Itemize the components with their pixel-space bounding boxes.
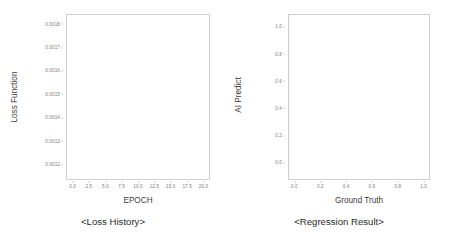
x-tick-label: 1.0 bbox=[420, 184, 427, 189]
y-tick-mark bbox=[283, 54, 285, 55]
y-tick-mark bbox=[61, 47, 63, 48]
y-tick-mark bbox=[61, 70, 63, 71]
y-tick-mark bbox=[61, 24, 63, 25]
y-tick-label: 0.0012 bbox=[45, 162, 60, 167]
x-tick-mark bbox=[294, 181, 295, 183]
x-tick-label: 7.5 bbox=[118, 184, 125, 189]
x-tick-label: 2.5 bbox=[86, 184, 93, 189]
x-tick-label: 12.5 bbox=[150, 184, 159, 189]
y-axis-label-regression-result: AI Predict bbox=[234, 77, 243, 113]
x-tick-mark bbox=[138, 181, 139, 183]
x-tick-mark bbox=[372, 181, 373, 183]
figure-regression-result: 0.00.20.40.60.81.0 0.00.20.40.60.81.0 AI… bbox=[226, 0, 452, 245]
y-tick-mark bbox=[61, 94, 63, 95]
x-tick-mark bbox=[346, 181, 347, 183]
caption-regression-result: <Regression Result> bbox=[226, 216, 452, 227]
x-tick-mark bbox=[320, 181, 321, 183]
y-tick-label: 0.6 bbox=[275, 78, 282, 83]
x-tick-mark bbox=[398, 181, 399, 183]
y-tick-mark bbox=[61, 141, 63, 142]
x-tick-label: 17.5 bbox=[182, 184, 191, 189]
x-tick-mark bbox=[122, 181, 123, 183]
x-tick-label: 5.0 bbox=[102, 184, 109, 189]
x-tick-mark bbox=[204, 181, 205, 183]
caption-loss-history: <Loss History> bbox=[0, 216, 226, 227]
y-tick-label: 0.0 bbox=[275, 160, 282, 165]
y-tick-label: 0.0016 bbox=[45, 68, 60, 73]
y-tick-label: 0.0017 bbox=[45, 45, 60, 50]
x-axis-ticks-regression-result: 0.00.20.40.60.81.0 bbox=[288, 181, 430, 193]
x-axis-label-loss-history: EPOCH bbox=[66, 196, 210, 205]
y-tick-mark bbox=[61, 164, 63, 165]
x-tick-mark bbox=[171, 181, 172, 183]
x-tick-label: 20.0 bbox=[199, 184, 208, 189]
x-tick-mark bbox=[154, 181, 155, 183]
y-tick-label: 0.8 bbox=[275, 51, 282, 56]
x-tick-label: 0.2 bbox=[317, 184, 324, 189]
y-tick-mark bbox=[283, 108, 285, 109]
y-axis-label-loss-history: Loss Function bbox=[10, 72, 19, 123]
x-tick-mark bbox=[187, 181, 188, 183]
x-tick-mark bbox=[72, 181, 73, 183]
plot-frame-loss-history bbox=[66, 14, 210, 180]
y-tick-label: 0.4 bbox=[275, 105, 282, 110]
x-tick-label: 15.0 bbox=[166, 184, 175, 189]
figure-loss-history: 0.00120.00130.00140.00150.00160.00170.00… bbox=[0, 0, 226, 245]
y-tick-mark bbox=[283, 81, 285, 82]
y-tick-label: 0.2 bbox=[275, 133, 282, 138]
y-tick-mark bbox=[61, 117, 63, 118]
x-tick-mark bbox=[89, 181, 90, 183]
x-tick-label: 10.0 bbox=[133, 184, 142, 189]
y-tick-mark bbox=[283, 162, 285, 163]
x-tick-label: 0.6 bbox=[369, 184, 376, 189]
x-axis-ticks-loss-history: 0.02.55.07.510.012.515.017.520.0 bbox=[66, 181, 210, 193]
y-tick-label: 0.0013 bbox=[45, 138, 60, 143]
y-tick-mark bbox=[283, 135, 285, 136]
y-tick-label: 0.0018 bbox=[45, 21, 60, 26]
x-tick-label: 0.0 bbox=[291, 184, 298, 189]
plot-frame-regression-result bbox=[288, 14, 430, 180]
x-tick-mark bbox=[105, 181, 106, 183]
x-tick-label: 0.4 bbox=[343, 184, 350, 189]
y-tick-mark bbox=[283, 26, 285, 27]
y-tick-label: 0.0015 bbox=[45, 91, 60, 96]
y-tick-label: 0.0014 bbox=[45, 115, 60, 120]
y-tick-label: 1.0 bbox=[275, 24, 282, 29]
x-tick-label: 0.0 bbox=[69, 184, 76, 189]
x-tick-label: 0.8 bbox=[394, 184, 401, 189]
x-tick-mark bbox=[424, 181, 425, 183]
x-axis-label-regression-result: Ground Truth bbox=[288, 196, 430, 205]
